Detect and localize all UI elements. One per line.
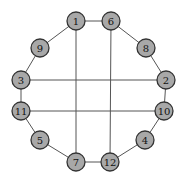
- node-12: 12: [101, 153, 119, 171]
- node-9: 9: [31, 39, 49, 57]
- edge-6-12: [110, 21, 111, 162]
- node-label: 11: [15, 106, 28, 117]
- node-6: 6: [102, 12, 120, 30]
- node-5: 5: [31, 131, 49, 149]
- node-label: 10: [158, 106, 171, 117]
- node-label: 8: [143, 43, 149, 54]
- node-label: 2: [163, 75, 169, 86]
- node-8: 8: [137, 39, 155, 57]
- node-label: 9: [37, 43, 43, 54]
- node-label: 6: [108, 16, 114, 27]
- node-2: 2: [157, 71, 175, 89]
- node-label: 12: [104, 157, 117, 168]
- node-7: 7: [67, 153, 85, 171]
- node-label: 5: [37, 135, 43, 146]
- nodes-layer: 169832111054712: [12, 12, 175, 171]
- node-label: 1: [73, 16, 79, 27]
- node-label: 4: [142, 135, 148, 146]
- node-4: 4: [136, 131, 154, 149]
- graph-diagram: 169832111054712: [0, 0, 185, 183]
- node-label: 7: [73, 157, 79, 168]
- node-3: 3: [12, 71, 30, 89]
- node-10: 10: [155, 102, 173, 120]
- node-1: 1: [67, 12, 85, 30]
- node-label: 3: [18, 75, 24, 86]
- node-11: 11: [12, 102, 30, 120]
